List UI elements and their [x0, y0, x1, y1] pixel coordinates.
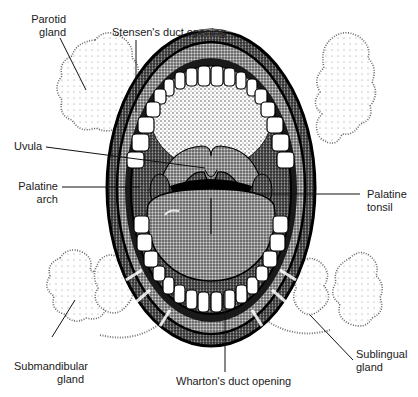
label-submandibular-gland: Submandibular gland — [14, 360, 84, 386]
label-palatine-tonsil: Palatine tonsil — [367, 188, 407, 214]
parotid-gland-right — [315, 33, 375, 143]
mouth-anatomy-diagram: Parotid gland Stensen's duct opening Uvu… — [0, 0, 418, 397]
label-sublingual-gland: Sublingual gland — [356, 348, 407, 374]
label-parotid-gland: Parotid gland — [22, 13, 66, 39]
label-whartons-duct-opening: Wharton's duct opening — [176, 375, 291, 388]
label-palatine-arch: Palatine arch — [14, 180, 58, 206]
label-uvula: Uvula — [14, 140, 42, 153]
diagram-illustration — [0, 0, 418, 397]
label-stensens-duct-opening: Stensen's duct opening — [112, 26, 226, 39]
